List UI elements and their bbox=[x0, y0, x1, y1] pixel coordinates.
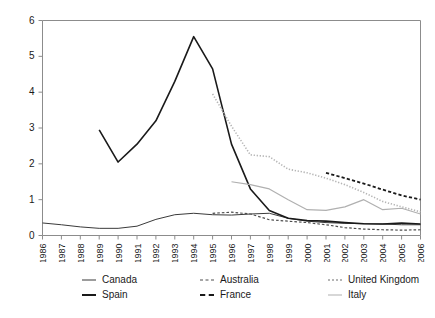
series-line-canada bbox=[43, 213, 421, 228]
legend-swatch-icon bbox=[82, 275, 96, 285]
series-line-france bbox=[326, 173, 421, 200]
legend-label: France bbox=[220, 289, 251, 300]
y-axis-ticks: 0123456 bbox=[29, 15, 43, 241]
legend-label: United Kingdom bbox=[348, 274, 419, 285]
y-tick-label: 4 bbox=[29, 86, 35, 97]
x-tick-label: 1992 bbox=[151, 244, 161, 263]
legend-item-spain[interactable]: Spain bbox=[82, 287, 200, 302]
chart-figure: 0123456 19861987198819891990199119921993… bbox=[0, 0, 435, 318]
legend-label: Italy bbox=[348, 289, 366, 300]
legend-item-italy[interactable]: Italy bbox=[328, 287, 435, 302]
x-tick-label: 1994 bbox=[189, 244, 199, 263]
x-tick-label: 1999 bbox=[284, 244, 294, 263]
y-tick-label: 3 bbox=[29, 122, 35, 133]
legend-item-united-kingdom[interactable]: United Kingdom bbox=[328, 272, 435, 287]
x-tick-label: 1988 bbox=[76, 244, 86, 263]
x-tick-label: 1998 bbox=[265, 244, 275, 263]
y-tick-label: 1 bbox=[29, 194, 35, 205]
y-tick-label: 5 bbox=[29, 50, 35, 61]
x-tick-label: 2006 bbox=[416, 244, 426, 263]
series-line-italy bbox=[232, 182, 421, 214]
series-lines bbox=[43, 37, 421, 231]
x-axis-ticks: 1986198719881989199019911992199319941995… bbox=[38, 236, 426, 263]
legend-item-australia[interactable]: Australia bbox=[200, 272, 328, 287]
x-tick-label: 1987 bbox=[57, 244, 67, 263]
x-tick-label: 1989 bbox=[95, 244, 105, 263]
y-tick-label: 0 bbox=[29, 230, 35, 241]
y-tick-label: 2 bbox=[29, 158, 35, 169]
legend-swatch-icon bbox=[328, 290, 342, 300]
legend-grid: CanadaAustraliaUnited KingdomSpainFrance… bbox=[82, 272, 435, 302]
x-tick-label: 1997 bbox=[246, 244, 256, 263]
legend-swatch-icon bbox=[328, 275, 342, 285]
y-tick-label: 6 bbox=[29, 15, 35, 26]
legend-item-canada[interactable]: Canada bbox=[82, 272, 200, 287]
x-tick-label: 2001 bbox=[322, 244, 332, 263]
legend-swatch-icon bbox=[200, 275, 214, 285]
legend-item-france[interactable]: France bbox=[200, 287, 328, 302]
legend-swatch-icon bbox=[200, 290, 214, 300]
x-tick-label: 2002 bbox=[340, 244, 350, 263]
chart-legend: CanadaAustraliaUnited KingdomSpainFrance… bbox=[0, 272, 435, 316]
x-tick-label: 1986 bbox=[38, 244, 48, 263]
legend-label: Spain bbox=[102, 289, 128, 300]
x-tick-label: 1993 bbox=[170, 244, 180, 263]
legend-label: Canada bbox=[102, 274, 137, 285]
legend-label: Australia bbox=[220, 274, 259, 285]
series-line-united-kingdom bbox=[213, 94, 421, 212]
plot-area: 0123456 19861987198819891990199119921993… bbox=[0, 0, 435, 262]
x-tick-label: 1991 bbox=[133, 244, 143, 263]
x-tick-label: 2005 bbox=[397, 244, 407, 263]
x-tick-label: 1990 bbox=[114, 244, 124, 263]
legend-swatch-icon bbox=[82, 290, 96, 300]
line-chart-svg: 0123456 19861987198819891990199119921993… bbox=[0, 0, 435, 262]
x-tick-label: 2003 bbox=[359, 244, 369, 263]
x-tick-label: 1995 bbox=[208, 244, 218, 263]
x-tick-label: 1996 bbox=[227, 244, 237, 263]
x-tick-label: 2000 bbox=[303, 244, 313, 263]
x-tick-label: 2004 bbox=[378, 244, 388, 263]
